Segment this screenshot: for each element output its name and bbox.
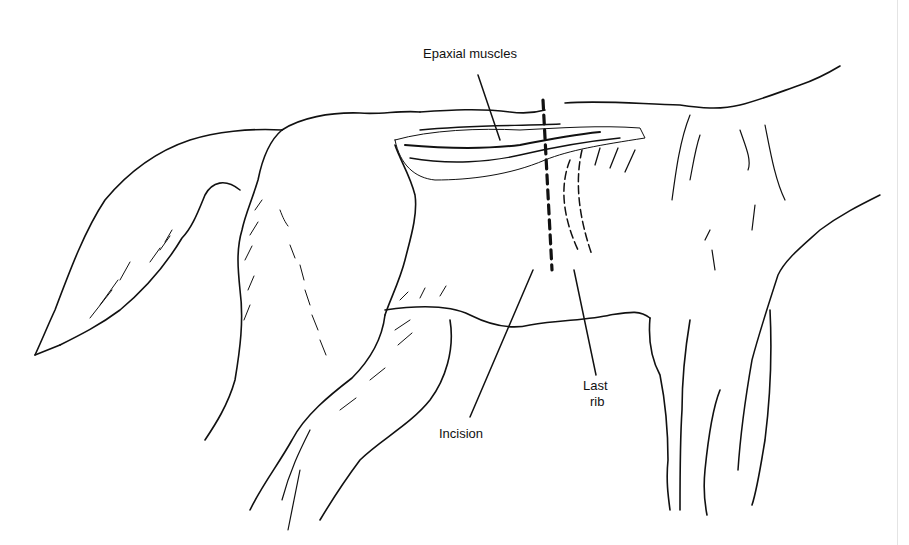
hind-legs: [250, 315, 451, 530]
forequarter: [672, 115, 880, 470]
last-rib-leader: [574, 270, 596, 375]
epaxial-leader: [478, 75, 500, 140]
hindquarter: [205, 112, 420, 440]
incision-leader: [470, 270, 533, 417]
tail: [35, 129, 282, 355]
scan-edge-line: [897, 0, 898, 545]
diagram-canvas: Epaxial muscles Incision Last rib: [0, 0, 909, 545]
incision-line: [543, 100, 552, 270]
rib-lines: [564, 148, 635, 255]
last-rib-label-line2: rib: [590, 394, 604, 409]
horse-illustration: [0, 0, 909, 545]
incision-label: Incision: [439, 426, 483, 441]
last-rib-label-line1: Last: [583, 378, 608, 393]
epaxial-muscles: [395, 124, 645, 180]
fore-legs: [649, 310, 770, 515]
epaxial-muscles-label: Epaxial muscles: [423, 46, 517, 61]
